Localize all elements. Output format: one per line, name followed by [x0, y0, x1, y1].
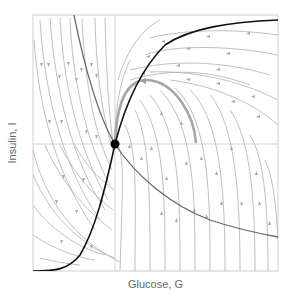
x-axis-label: Glucose, G — [0, 278, 293, 290]
streamline-arrows — [40, 32, 271, 249]
fixed-point-marker — [111, 140, 120, 149]
glucose-nullcline — [33, 20, 278, 271]
phase-plane-plot — [0, 0, 293, 300]
y-axis-label: Insulin, I — [6, 123, 18, 164]
plot-frame — [33, 15, 278, 271]
